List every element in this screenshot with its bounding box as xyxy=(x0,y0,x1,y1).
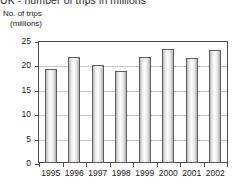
y-axis-tick-label: 10 xyxy=(0,110,31,119)
x-axis-tick-label: 1996 xyxy=(63,168,87,178)
bar[interactable] xyxy=(209,50,221,163)
y-axis-tick-label: 5 xyxy=(0,135,31,144)
y-axis-tick-label: 20 xyxy=(0,61,31,70)
x-axis-tick-label: 2000 xyxy=(157,168,181,178)
x-axis-tick xyxy=(110,163,111,167)
x-axis-tick-label: 1999 xyxy=(133,168,157,178)
bar-series xyxy=(39,42,227,163)
x-axis-tick xyxy=(227,163,228,167)
bar[interactable] xyxy=(92,65,104,163)
x-axis-tick xyxy=(133,163,134,167)
x-axis-tick xyxy=(86,163,87,167)
bar[interactable] xyxy=(162,49,174,163)
x-axis-tick xyxy=(39,163,40,167)
x-axis: 19951996199719981999200020012002 xyxy=(38,163,228,186)
x-axis-tick-label: 2002 xyxy=(204,168,228,178)
y-axis-tick-label: 0 xyxy=(0,159,31,168)
bar-slot xyxy=(63,42,87,163)
x-axis-tick-label: 1995 xyxy=(39,168,63,178)
x-axis-tick-label: 1997 xyxy=(86,168,110,178)
x-axis-tick xyxy=(63,163,64,167)
x-axis-tick xyxy=(157,163,158,167)
bar[interactable] xyxy=(68,57,80,163)
x-axis-tick-label: 2001 xyxy=(180,168,204,178)
x-axis-tick-label: 1998 xyxy=(110,168,134,178)
bar[interactable] xyxy=(139,57,151,163)
bar-slot xyxy=(86,42,110,163)
y-axis-tick-label: 25 xyxy=(0,37,31,46)
bar[interactable] xyxy=(45,69,57,163)
bar-slot xyxy=(157,42,181,163)
x-axis-tick xyxy=(204,163,205,167)
bar[interactable] xyxy=(115,71,127,163)
bar-slot xyxy=(204,42,228,163)
bar[interactable] xyxy=(186,58,198,163)
chart-plot: 19951996199719981999200020012002 0510152… xyxy=(0,0,234,186)
bar-slot xyxy=(110,42,134,163)
x-axis-tick xyxy=(180,163,181,167)
y-axis-tick-label: 15 xyxy=(0,86,31,95)
bar-slot xyxy=(39,42,63,163)
bar-slot xyxy=(180,42,204,163)
bar-slot xyxy=(133,42,157,163)
